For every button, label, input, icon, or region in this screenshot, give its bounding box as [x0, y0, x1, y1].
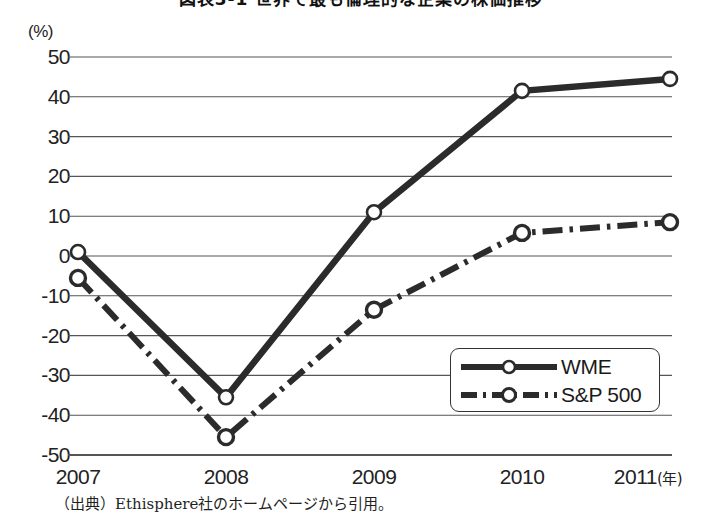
legend: WME S&P 500	[450, 348, 660, 412]
chart-plot-area: (%) 50 40 30 20 10 0 -10 -20 -30 -40 -50…	[0, 0, 722, 470]
legend-entry-sp500: S&P 500	[451, 381, 659, 409]
legend-label-wme: WME	[561, 355, 611, 379]
legend-swatch-dashdot-icon	[457, 384, 561, 406]
legend-swatch-solid-icon	[457, 356, 561, 378]
legend-label-sp500: S&P 500	[561, 383, 641, 407]
x-axis-unit-label: (年)	[657, 470, 682, 488]
source-note: （出典）Ethisphere社のホームページから引用。	[55, 492, 393, 513]
legend-entry-wme: WME	[451, 353, 659, 381]
